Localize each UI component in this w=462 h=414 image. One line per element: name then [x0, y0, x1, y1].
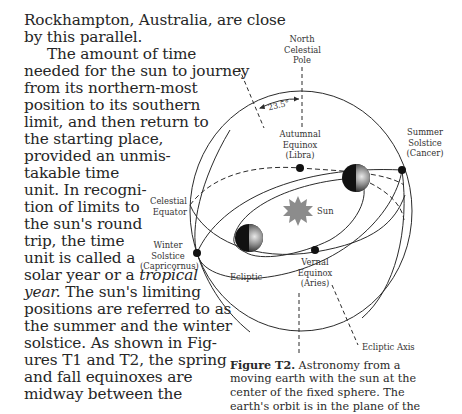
arrowhead-icon [259, 104, 265, 109]
label-line: North [284, 34, 320, 45]
ecliptic-axis-label: Ecliptic Axis [362, 342, 415, 353]
caption-text: Astronomy from a [295, 359, 400, 372]
summer-solstice-label: Summer Solstice (Cancer) [400, 127, 450, 159]
solstice-meridian-front [197, 253, 250, 332]
figure-label: Figure T2. [230, 358, 295, 372]
label-line: Equator [145, 207, 187, 218]
solstice-meridian-right [362, 170, 404, 318]
arrowhead-icon [294, 97, 299, 102]
label-line: Vernal [290, 257, 340, 268]
ecliptic-back [370, 183, 404, 220]
label-line: Summer [400, 127, 450, 138]
vernal-equinox-label: Vernal Equinox (Aries) [290, 257, 340, 289]
solstice-meridian-upper [195, 130, 230, 253]
vernal-equinox-point [311, 246, 319, 254]
label-line: Solstice [400, 138, 450, 149]
summer-solstice-point [398, 166, 406, 174]
label-line: Celestial [145, 196, 187, 207]
label-line: Celestial [284, 45, 320, 56]
north-pole-label: North Celestial Pole [284, 34, 320, 66]
ecliptic-axis-bottom [332, 285, 358, 345]
caption-line: moving earth with the sun at the [230, 372, 416, 386]
earth-left-icon [235, 224, 263, 252]
winter-solstice-label: Winter Solstice (Capricornus) [140, 240, 196, 272]
autumnal-equinox-point [296, 164, 304, 172]
label-line: Equinox [275, 140, 325, 151]
sun-label: Sun [317, 206, 334, 217]
caption-line: earth's orbit is in the plane of the [230, 400, 420, 414]
autumnal-equinox-label: Autumnal Equinox (Libra) [275, 129, 325, 161]
celestial-equator-label: Celestial Equator [145, 196, 187, 217]
label-line: (Capricornus) [140, 261, 196, 272]
label-line: Pole [284, 55, 320, 66]
label-line: Solstice [140, 251, 196, 262]
caption-line: center of the fixed sphere. The [230, 386, 405, 400]
label-line: (Cancer) [400, 148, 450, 159]
label-line: (Aries) [290, 278, 340, 289]
label-line: Winter [140, 240, 196, 251]
label-line: (Libra) [275, 150, 325, 161]
sun-icon [283, 196, 313, 226]
ecliptic-label: Ecliptic [230, 272, 262, 283]
ecliptic-axis-top [239, 68, 264, 128]
earth-right-icon [342, 164, 370, 192]
label-line: Autumnal [275, 129, 325, 140]
label-line: Equinox [290, 268, 340, 279]
